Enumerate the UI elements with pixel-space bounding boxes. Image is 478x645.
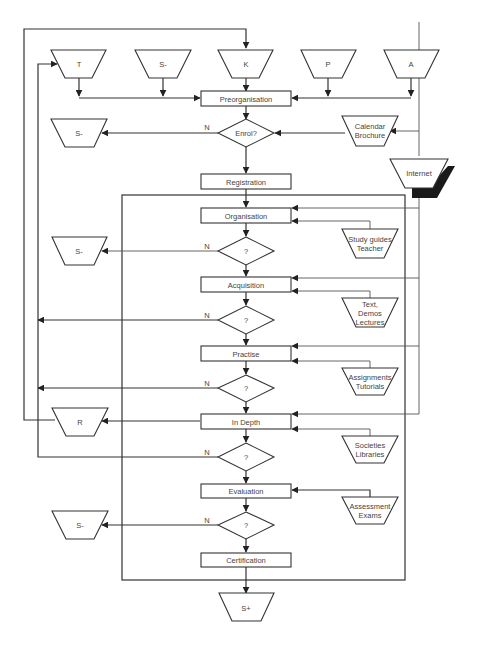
step-practise[interactable]: Practise bbox=[201, 346, 291, 361]
step-preorganisation[interactable]: Preorganisation bbox=[201, 91, 291, 106]
learning-process-flowchart: T S- K P A Preorganisation Registration … bbox=[0, 0, 478, 645]
assessment-to-evaluation-arrow bbox=[292, 490, 370, 497]
svg-text:Assignments: Assignments bbox=[349, 373, 392, 382]
resource-calendar-brochure[interactable]: Calendar Brochure bbox=[342, 116, 398, 146]
svg-text:?: ? bbox=[244, 247, 248, 256]
resource-societies-libraries[interactable]: Societies Libraries bbox=[342, 436, 398, 463]
step-organisation[interactable]: Organisation bbox=[201, 208, 291, 223]
svg-text:Enrol?: Enrol? bbox=[235, 129, 257, 138]
no-label: N bbox=[204, 379, 209, 388]
svg-text:Certification: Certification bbox=[226, 556, 266, 565]
no-label: N bbox=[204, 123, 209, 132]
step-in-depth[interactable]: In Depth bbox=[201, 414, 291, 429]
svg-text:Calendar: Calendar bbox=[355, 122, 386, 131]
svg-text:Tutorials: Tutorials bbox=[356, 382, 385, 391]
svg-text:Practise: Practise bbox=[232, 350, 259, 359]
step-evaluation[interactable]: Evaluation bbox=[201, 484, 291, 498]
resource-study-guides-teacher[interactable]: Study guides Teacher bbox=[342, 229, 398, 258]
sink-s-minus-enrol[interactable]: S- bbox=[51, 119, 107, 147]
svg-text:T: T bbox=[77, 60, 82, 69]
svg-text:Lectures: Lectures bbox=[356, 318, 385, 327]
resource-assignments-tutorials[interactable]: Assignments Tutorials bbox=[342, 368, 398, 395]
svg-text:?: ? bbox=[244, 453, 248, 462]
svg-text:Acquisition: Acquisition bbox=[228, 281, 264, 290]
source-k[interactable]: K bbox=[218, 50, 273, 78]
source-s-minus[interactable]: S- bbox=[135, 50, 191, 78]
svg-text:Preorganisation: Preorganisation bbox=[220, 95, 273, 104]
svg-text:Libraries: Libraries bbox=[356, 450, 385, 459]
svg-text:In Depth: In Depth bbox=[232, 418, 260, 427]
svg-text:P: P bbox=[325, 60, 330, 69]
svg-text:R: R bbox=[77, 418, 83, 427]
svg-text:?: ? bbox=[244, 316, 248, 325]
source-a[interactable]: A bbox=[384, 50, 439, 78]
svg-text:Text,: Text, bbox=[362, 300, 378, 309]
sink-s-plus[interactable]: S+ bbox=[219, 593, 274, 621]
assignments-to-practise-arrow bbox=[292, 361, 370, 368]
svg-text:Exams: Exams bbox=[359, 511, 382, 520]
no-label: N bbox=[204, 242, 209, 251]
resource-assessment-exams[interactable]: Assessment Exams bbox=[342, 497, 398, 524]
svg-text:Demos: Demos bbox=[358, 309, 382, 318]
no-label: N bbox=[204, 516, 209, 525]
svg-text:A: A bbox=[408, 60, 413, 69]
step-acquisition[interactable]: Acquisition bbox=[201, 277, 291, 292]
svg-text:Assessment: Assessment bbox=[350, 502, 392, 511]
source-p[interactable]: P bbox=[301, 50, 356, 78]
sink-r[interactable]: R bbox=[52, 408, 108, 436]
svg-text:Internet: Internet bbox=[406, 169, 432, 178]
svg-text:S-: S- bbox=[159, 60, 167, 69]
svg-text:?: ? bbox=[244, 521, 248, 530]
svg-text:Societies: Societies bbox=[355, 441, 386, 450]
svg-text:S-: S- bbox=[76, 521, 84, 530]
resource-internet[interactable]: Internet bbox=[390, 159, 455, 198]
svg-text:Study guides: Study guides bbox=[348, 235, 392, 244]
svg-text:Teacher: Teacher bbox=[357, 244, 384, 253]
svg-text:Evaluation: Evaluation bbox=[228, 487, 263, 496]
svg-text:Brochure: Brochure bbox=[355, 131, 385, 140]
step-certification[interactable]: Certification bbox=[201, 553, 291, 567]
no-label: N bbox=[204, 311, 209, 320]
svg-text:S-: S- bbox=[75, 247, 83, 256]
svg-text:Organisation: Organisation bbox=[225, 212, 268, 221]
svg-text:?: ? bbox=[244, 384, 248, 393]
sink-s-minus-organisation[interactable]: S- bbox=[52, 237, 107, 265]
step-registration[interactable]: Registration bbox=[201, 174, 291, 189]
svg-text:Registration: Registration bbox=[226, 178, 266, 187]
svg-text:S-: S- bbox=[75, 129, 83, 138]
sink-s-minus-evaluation[interactable]: S- bbox=[52, 511, 108, 539]
study-guides-to-organisation-arrow bbox=[292, 221, 370, 229]
resource-text-demos-lectures[interactable]: Text, Demos Lectures bbox=[342, 298, 398, 327]
no-label: N bbox=[204, 448, 209, 457]
svg-text:K: K bbox=[243, 60, 248, 69]
svg-text:S+: S+ bbox=[241, 604, 251, 613]
source-t[interactable]: T bbox=[51, 50, 106, 78]
